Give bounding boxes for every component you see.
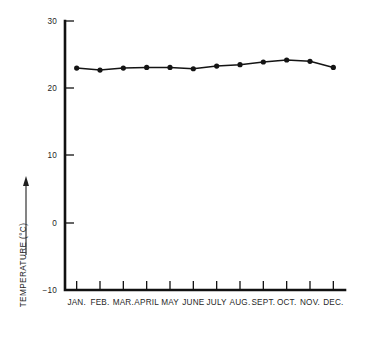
x-tick-label-sept: SEPT. [251, 298, 275, 307]
data-point-aug [237, 62, 242, 67]
y-tick-label-20: 20 [47, 84, 57, 93]
x-tick-label-mar: MAR. [113, 298, 134, 307]
data-point-june [191, 66, 196, 71]
y-tick-label-0: 0 [52, 219, 57, 228]
data-point-july [214, 63, 219, 68]
x-tick-label-july: JULY [207, 298, 228, 307]
series-markers-temperature [74, 57, 336, 72]
y-axis-title: TEMPERATURE (°C) [19, 223, 28, 308]
data-point-nov [307, 59, 312, 64]
temperature-line-chart: TEMPERATURE (°C) 30 20 10 0 −10 JA [0, 0, 365, 338]
y-tick-label-minus10: −10 [43, 286, 58, 295]
data-point-dec [331, 65, 336, 70]
data-point-april [144, 65, 149, 70]
y-tick-label-30: 30 [47, 17, 57, 26]
x-tick-label-april: APRIL [134, 298, 159, 307]
series-line-temperature [77, 60, 334, 70]
data-point-may [167, 65, 172, 70]
x-tick-label-dec: DEC. [323, 298, 343, 307]
y-tick-label-10: 10 [47, 151, 57, 160]
series-group [74, 57, 336, 72]
data-point-mar [121, 65, 126, 70]
x-tick-label-nov: NOV. [300, 298, 320, 307]
x-axis-ticks [77, 281, 334, 290]
data-point-jan [74, 65, 79, 70]
x-tick-label-aug: AUG. [230, 298, 251, 307]
data-point-feb [97, 67, 102, 72]
y-axis-tick-labels: 30 20 10 0 −10 [43, 17, 58, 295]
x-tick-label-june: JUNE [182, 298, 205, 307]
x-tick-label-oct: OCT. [277, 298, 296, 307]
x-tick-label-jan: JAN. [67, 298, 86, 307]
y-axis-title-group: TEMPERATURE (°C) [19, 176, 29, 307]
y-axis-ticks [65, 21, 74, 290]
data-point-sept [261, 59, 266, 64]
x-axis-tick-labels: JAN.FEB.MAR.APRILMAYJUNEJULYAUG.SEPT.OCT… [67, 298, 343, 307]
chart-canvas: TEMPERATURE (°C) 30 20 10 0 −10 JA [0, 0, 365, 338]
x-tick-label-may: MAY [161, 298, 179, 307]
data-point-oct [284, 57, 289, 62]
x-tick-label-feb: FEB. [91, 298, 110, 307]
